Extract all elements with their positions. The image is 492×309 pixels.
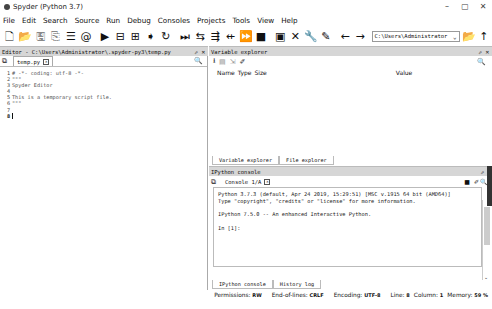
save-data-icon[interactable]: ▤ — [219, 58, 226, 66]
status-bar: Permissions: RW End-of-lines: CRLF Encod… — [0, 290, 492, 301]
step-icon[interactable]: ⇆ — [193, 29, 207, 43]
main-toolbar: 🗋 📂 🖫 ⎘ ☰ @ ▶ ⊟ ⊞ ➧ ↻ ⏭ ⇆ ⇶ ⇷ ⏩ ■ ▣ ✕ 🔧 … — [0, 26, 492, 46]
continue-icon[interactable]: ⏩ — [239, 29, 253, 43]
options-icon[interactable]: 🔍 — [194, 57, 203, 65]
open-file-icon[interactable]: 📂 — [18, 29, 32, 43]
console-scrollbar[interactable]: ⌄ — [482, 200, 490, 280]
save-icon[interactable]: 🖫 — [34, 29, 48, 43]
tab-history-log[interactable]: History log — [273, 280, 321, 289]
close-button[interactable]: ✕ — [474, 0, 492, 14]
maximize-button[interactable]: ▢ — [456, 0, 474, 14]
clear-console-icon[interactable]: ✐ — [474, 178, 479, 185]
window-title: Spyder (Python 3.7) — [13, 3, 83, 11]
search-icon[interactable]: 🔍 — [477, 58, 486, 66]
fullscreen-icon[interactable]: ✕ — [288, 29, 302, 43]
run-cell-icon[interactable]: ⊟ — [113, 29, 127, 43]
tab-console-1a[interactable]: Console 1/A× — [222, 177, 273, 187]
menu-view[interactable]: View — [257, 16, 274, 25]
tab-ipython-console[interactable]: IPython console — [212, 280, 273, 289]
remove-all-icon[interactable]: ✐ — [240, 58, 246, 66]
parent-directory-icon[interactable]: ↑ — [477, 29, 491, 43]
close-tab-icon[interactable]: × — [43, 59, 49, 65]
stop-icon[interactable]: ■ — [254, 29, 268, 43]
run-selection-icon[interactable]: ➧ — [144, 29, 158, 43]
variable-explorer-header: Variable explorer ⇗ ✕ — [209, 46, 492, 56]
back-icon[interactable]: ← — [338, 29, 352, 43]
menu-help[interactable]: Help — [281, 16, 297, 25]
pythonpath-icon[interactable]: ✎ — [319, 29, 333, 43]
column-value[interactable]: Value — [396, 69, 412, 76]
menu-run[interactable]: Run — [106, 16, 120, 25]
text-cursor — [12, 113, 13, 119]
column-name[interactable]: Name — [217, 69, 235, 76]
editor-pane-header: Editor - C:\Users\Administrator\.spyder-… — [0, 46, 208, 56]
debug-icon[interactable]: ⏭ — [178, 29, 192, 43]
tab-variable-explorer[interactable]: Variable explorer — [212, 156, 279, 165]
browse-tabs-icon[interactable]: ⧉ — [211, 178, 216, 186]
top-right-tabs: Variable explorer File explorer — [212, 156, 334, 165]
code-editor[interactable]: 1# -*- coding: utf-8 -*- 2""" 3Spyder Ed… — [0, 67, 207, 119]
save-all-icon[interactable]: ⎘ — [49, 29, 63, 43]
minimize-button[interactable]: – — [438, 0, 456, 14]
menu-tools[interactable]: Tools — [232, 16, 250, 25]
column-type[interactable]: Type — [238, 69, 252, 76]
bottom-right-tabs: IPython console History log — [212, 280, 321, 289]
step-into-icon[interactable]: ⇶ — [208, 29, 222, 43]
new-file-icon[interactable]: 🗋 — [3, 29, 17, 43]
menu-edit[interactable]: Edit — [22, 16, 36, 25]
variable-explorer-pane: ⭳ ▤ ⇲ ✐ 🔍 Name Type Size Value — [209, 56, 492, 162]
chevron-down-icon[interactable]: ⌄ — [453, 32, 457, 41]
run-cell-advance-icon[interactable]: ⊞ — [129, 29, 143, 43]
step-return-icon[interactable]: ⇷ — [224, 29, 238, 43]
stop-kernel-icon[interactable]: ■ — [464, 178, 470, 185]
save-data-as-icon[interactable]: ⇲ — [230, 58, 236, 66]
outline-icon[interactable]: ☰ — [64, 29, 78, 43]
close-tab-icon[interactable]: × — [264, 179, 270, 185]
run-icon[interactable]: ▶ — [98, 29, 112, 43]
working-directory-input[interactable]: C:\Users\Administrator⌄ — [372, 31, 460, 42]
menu-file[interactable]: File — [3, 16, 15, 25]
menu-consoles[interactable]: Consoles — [158, 16, 190, 25]
import-data-icon[interactable]: ⭳ — [213, 56, 215, 67]
menu-bar: File Edit Search Source Run Debug Consol… — [0, 14, 305, 26]
maximize-pane-icon[interactable]: ▣ — [273, 29, 287, 43]
title-bar: Spyder (Python 3.7) – ▢ ✕ — [0, 0, 492, 14]
variable-table-header: Name Type Size Value — [209, 67, 492, 76]
editor-pane: ⧉ temp.py× 🔍 1# -*- coding: utf-8 -*- 2"… — [0, 56, 208, 290]
tab-file-explorer[interactable]: File explorer — [279, 156, 334, 165]
spyder-logo-icon — [4, 4, 10, 10]
menu-source[interactable]: Source — [75, 16, 100, 25]
scroll-down-icon[interactable]: ⌄ — [484, 274, 488, 280]
ipython-console-pane: ⧉ Console 1/A× ■ ✐ 🔍 Python 3.7.3 (defau… — [209, 176, 492, 290]
options-icon[interactable]: 🔍 — [480, 178, 487, 185]
browse-tabs-icon[interactable]: ⧉ — [2, 57, 7, 65]
menu-debug[interactable]: Debug — [127, 16, 151, 25]
browse-folder-icon[interactable]: 📂 — [462, 29, 476, 43]
forward-icon[interactable]: → — [353, 29, 367, 43]
console-output[interactable]: Python 3.7.3 (default, Apr 24 2019, 15:2… — [213, 187, 482, 267]
column-size[interactable]: Size — [254, 69, 266, 76]
tab-temp-py[interactable]: temp.py× — [13, 56, 53, 66]
menu-search[interactable]: Search — [43, 16, 68, 25]
menu-projects[interactable]: Projects — [197, 16, 225, 25]
tools-icon[interactable]: 🔧 — [304, 29, 318, 43]
preferences-icon[interactable]: @ — [79, 29, 93, 43]
rerun-icon[interactable]: ↻ — [159, 29, 173, 43]
ipython-console-header: IPython console ⇗ — [209, 166, 492, 176]
